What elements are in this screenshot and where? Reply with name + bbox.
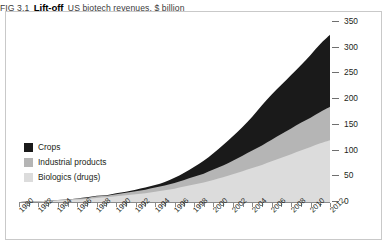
y-tick-label: 50 — [344, 170, 353, 181]
legend-item: Industrial products — [24, 156, 174, 171]
y-tick-mark — [332, 21, 339, 22]
x-axis-labels: 1980198219841986198819901992199419961998… — [0, 206, 388, 244]
figure-number: FIG 3.1 — [0, 3, 29, 11]
y-tick-mark — [332, 47, 339, 48]
legend-label: Industrial products — [38, 157, 106, 168]
y-tick-mark — [332, 150, 339, 151]
y-tick-label: 250 — [344, 67, 358, 78]
legend-swatch-biologics — [24, 173, 33, 182]
page-title: Lift-off — [34, 2, 64, 11]
chart-subtitle: US biotech revenues, $ billion — [68, 3, 185, 11]
y-tick-label: 350 — [344, 16, 358, 27]
y-tick-label: 300 — [344, 42, 358, 53]
y-tick-mark — [332, 98, 339, 99]
legend-item: Crops — [24, 141, 174, 156]
legend-item: Biologics (drugs) — [24, 171, 174, 186]
y-tick-label: 100 — [344, 145, 358, 156]
y-tick-label: 150 — [344, 119, 358, 130]
y-tick-mark — [332, 175, 339, 176]
legend-label: Crops — [38, 142, 60, 153]
chart-legend: CropsIndustrial productsBiologics (drugs… — [24, 141, 174, 186]
legend-swatch-crops — [24, 143, 33, 152]
y-tick-mark — [332, 72, 339, 73]
legend-label: Biologics (drugs) — [38, 172, 100, 183]
y-tick-mark — [332, 124, 339, 125]
y-tick-label: 200 — [344, 93, 358, 104]
legend-swatch-industrial — [24, 158, 33, 167]
chart-header: FIG 3.1 Lift-off US biotech revenues, $ … — [0, 0, 388, 11]
